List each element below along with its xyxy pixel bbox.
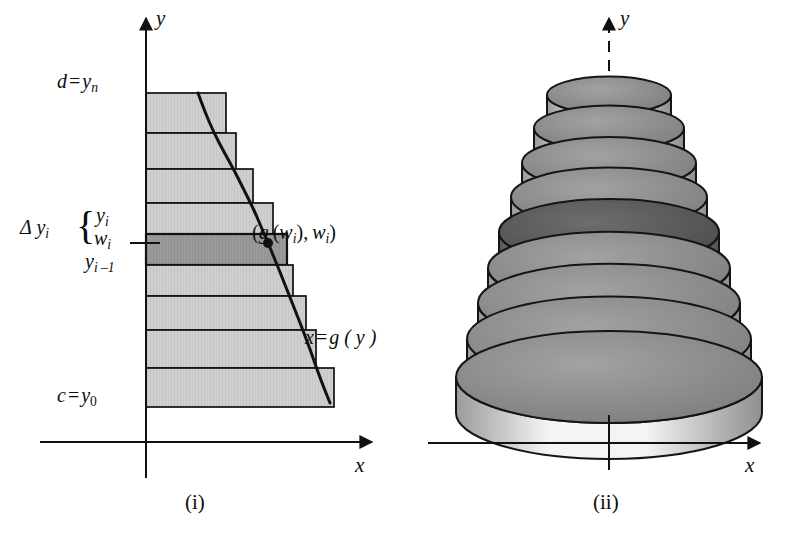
label-y-i-minus-1: yi –1 [85, 251, 115, 274]
label-d: d [57, 70, 67, 92]
y-axis-label-i: y [156, 8, 165, 29]
w-i-base: w [279, 221, 292, 243]
g-function: g [259, 221, 269, 243]
y-axis-label-ii: y [620, 8, 629, 29]
label-y-i: yi [96, 205, 109, 228]
caption-i: (i) [185, 492, 205, 513]
x-symbol: x [305, 326, 314, 348]
delta-y-subscript: i [45, 226, 49, 241]
comma: , [303, 221, 312, 243]
delta-y-base: Δ y [20, 216, 45, 238]
figure-root: y x d=yn c=y0 Δ yi { yi wi yi –1 (g (wi)… [0, 0, 785, 549]
paren-close: ) [329, 221, 336, 243]
approximating-rectangle [146, 93, 226, 133]
x-axis-label-ii: x [745, 455, 754, 476]
y-i-1-base: y [85, 250, 94, 272]
approximating-rectangle [146, 296, 306, 330]
disk-top-face [456, 331, 762, 423]
label-w-i: wi [94, 228, 111, 251]
paren-open: ( [252, 221, 259, 243]
panel-diagram-ii: y x (ii) [400, 0, 785, 549]
label-y0-subscript: 0 [90, 394, 97, 409]
label-yn-subscript: n [91, 80, 98, 95]
equals-sign: = [66, 384, 81, 406]
equals-sign: = [67, 70, 82, 92]
label-y0-base: y [81, 384, 90, 406]
w-i-base-2: w [312, 221, 325, 243]
label-c: c [57, 384, 66, 406]
label-yn-base: y [82, 70, 91, 92]
y-i-base: y [96, 204, 105, 226]
x-axis-label-i: x [355, 455, 364, 476]
g-of-y: g ( y ) [329, 326, 376, 348]
approximating-rectangle [146, 368, 334, 407]
label-curve-equation: x=g ( y ) [305, 327, 376, 347]
panel-ii-canvas [400, 0, 785, 549]
label-sample-point: (g (wi), wi) [252, 222, 336, 245]
brace-glyph: { [76, 206, 95, 246]
caption-ii: (ii) [593, 492, 619, 513]
rectangle-group [146, 93, 334, 407]
equals-sign: = [314, 326, 329, 348]
approximating-rectangle [146, 330, 316, 368]
label-upper-bound-d: d=yn [57, 71, 98, 94]
label-delta-y-i: Δ yi [20, 217, 49, 240]
y-i-1-subscript: i –1 [94, 260, 115, 275]
approximating-rectangle [146, 265, 293, 296]
w-i-base: w [94, 227, 107, 249]
label-lower-bound-c: c=y0 [57, 385, 97, 408]
panel-diagram-i: y x d=yn c=y0 Δ yi { yi wi yi –1 (g (wi)… [0, 0, 400, 549]
w-i-subscript: i [107, 237, 111, 252]
paren-open-inner: ( [269, 221, 280, 243]
